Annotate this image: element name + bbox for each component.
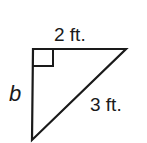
top-leg-label: 2 ft. bbox=[54, 24, 86, 45]
right-angle-marker bbox=[33, 49, 53, 66]
right-triangle-diagram: 2 ft. 3 ft. b bbox=[0, 0, 147, 143]
left-leg-label: b bbox=[9, 81, 21, 106]
hypotenuse-label: 3 ft. bbox=[90, 94, 122, 115]
